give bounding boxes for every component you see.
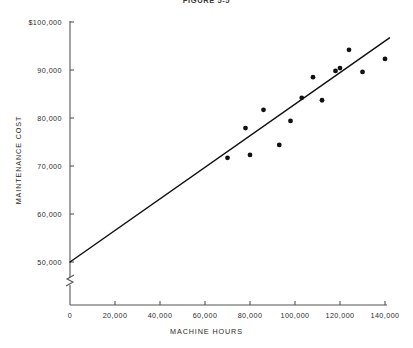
- data-point: [248, 153, 253, 158]
- x-axis-tick-label: 80,000: [238, 311, 263, 320]
- x-axis-tick-label: 60,000: [193, 311, 218, 320]
- data-points-group: [225, 47, 387, 160]
- axes-group: [66, 21, 387, 305]
- data-point: [299, 95, 304, 100]
- data-point: [277, 142, 282, 147]
- x-axis-tick-label: 140,000: [370, 311, 399, 320]
- data-point: [261, 107, 266, 112]
- x-axis-tick-label: 20,000: [103, 311, 128, 320]
- data-point: [338, 66, 343, 71]
- regression-line-segment: [70, 38, 390, 262]
- x-axis-tick-label: 100,000: [280, 311, 309, 320]
- data-point: [347, 47, 352, 52]
- x-axis-tick-label: 0: [68, 311, 72, 320]
- y-axis-tick-label: 60,000: [0, 210, 62, 219]
- y-axis-tick-label: 70,000: [0, 162, 62, 171]
- data-point: [320, 98, 325, 103]
- data-point: [288, 118, 293, 123]
- y-axis-title: MAINTENANCE COST: [14, 116, 23, 205]
- data-point: [383, 57, 388, 62]
- x-axis-title: MACHINE HOURS: [0, 327, 413, 336]
- y-axis-tick-label: $100,000: [0, 18, 62, 27]
- regression-line: [70, 38, 390, 262]
- figure-container: FIGURE 5-5 50,00060,00070,00080,00090,00…: [0, 0, 413, 348]
- y-axis-tick-label: 80,000: [0, 114, 62, 123]
- x-axis-tick-label: 40,000: [148, 311, 173, 320]
- y-axis-tick-label: 90,000: [0, 66, 62, 75]
- data-point: [243, 126, 248, 131]
- data-point: [360, 70, 365, 75]
- data-point: [333, 69, 338, 74]
- data-point: [311, 75, 316, 80]
- data-point: [225, 155, 230, 160]
- x-axis-tick-label: 120,000: [325, 311, 354, 320]
- y-axis-tick-label: 50,000: [0, 258, 62, 267]
- scatter-plot-canvas: [0, 0, 413, 348]
